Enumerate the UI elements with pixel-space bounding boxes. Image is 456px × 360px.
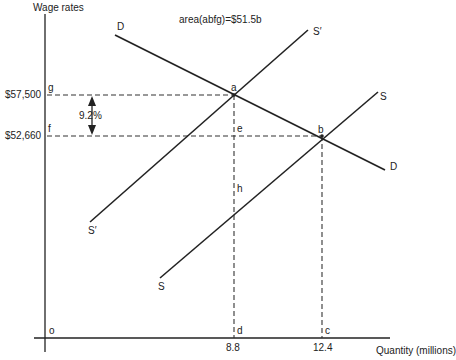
- point-o-label: o: [49, 326, 55, 336]
- point-d-label: d: [237, 326, 243, 336]
- supply-bottom-label: S: [158, 282, 165, 292]
- point-c-label: c: [325, 326, 330, 336]
- point-g-label: g: [48, 83, 54, 93]
- wage-supply-demand-diagram: Wage rates Quantity (millions) area(abfg…: [0, 0, 456, 360]
- point-a-marker: [232, 93, 236, 97]
- point-b-label: b: [318, 125, 324, 135]
- y-tick-high-wage: $57,500: [5, 90, 41, 100]
- demand-curve-top-label: D: [117, 22, 124, 32]
- point-f-label: f: [48, 124, 51, 134]
- supply-top-label: S: [380, 92, 387, 102]
- x-axis-label: Quantity (millions): [376, 346, 456, 356]
- x-tick-8-8: 8.8: [226, 343, 240, 353]
- x-tick-12-4: 12.4: [313, 343, 332, 353]
- supply-prime-bottom-label: S′: [88, 226, 97, 236]
- area-annotation: area(abfg)=$51.5b: [179, 15, 262, 25]
- diagram-canvas: [0, 0, 456, 360]
- demand-curve-D: [115, 35, 385, 170]
- y-axis-label: Wage rates: [33, 3, 84, 13]
- supply-curve-S-prime: [90, 30, 308, 222]
- supply-curve-S: [160, 92, 378, 278]
- percent-change-label: 9.2%: [79, 111, 102, 121]
- supply-prime-top-label: S′: [313, 27, 322, 37]
- demand-curve-bottom-label: D: [390, 162, 397, 172]
- y-tick-low-wage: $52,660: [5, 131, 41, 141]
- point-a-label: a: [231, 83, 237, 93]
- point-h-label: h: [237, 184, 243, 194]
- point-e-label: e: [237, 124, 243, 134]
